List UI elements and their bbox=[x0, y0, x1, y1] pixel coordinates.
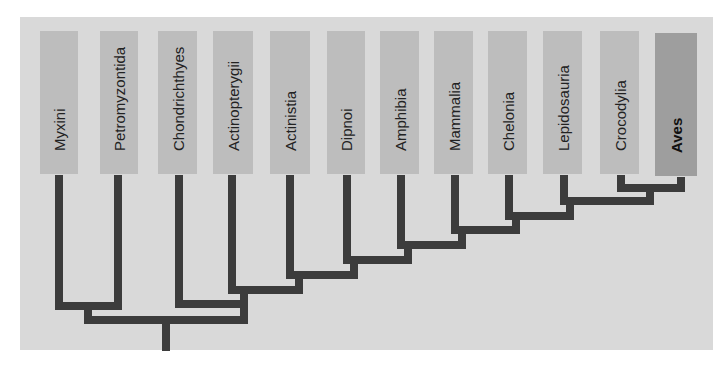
taxon-actinopterygii: Actinopterygii bbox=[213, 31, 253, 174]
node-gnathostomata bbox=[175, 300, 248, 308]
node-archosauria bbox=[617, 184, 685, 192]
taxon-chelonia: Chelonia bbox=[488, 31, 527, 174]
taxon-label: Crocodylia bbox=[611, 80, 628, 151]
node-osteichthyes bbox=[228, 286, 303, 294]
taxon-label: Amphibia bbox=[391, 88, 408, 151]
branch-tetrapoda-stem bbox=[458, 234, 466, 249]
node-sarcopterygii bbox=[286, 271, 358, 279]
branch-amniota-stem bbox=[512, 220, 520, 234]
branch-root-stem bbox=[162, 316, 170, 351]
branch-reptilia-stem bbox=[566, 205, 574, 220]
branch-chondrichthyes bbox=[175, 175, 183, 308]
branch-dipnoi bbox=[343, 175, 351, 264]
taxon-lepidosauria: Lepidosauria bbox=[543, 31, 582, 174]
branch-amphibia bbox=[397, 175, 405, 249]
branch-myxini bbox=[55, 175, 63, 310]
node-rhipidistia bbox=[343, 256, 412, 264]
branch-actinopterygii bbox=[228, 175, 236, 294]
taxon-label: Chelonia bbox=[499, 92, 516, 151]
taxon-label: Actinopterygii bbox=[225, 61, 242, 151]
taxon-chondrichthyes: Chondrichthyes bbox=[158, 31, 197, 174]
taxon-label: Dipnoi bbox=[338, 108, 355, 151]
branch-rhipidistia-stem bbox=[404, 249, 412, 264]
taxon-label: Myxini bbox=[51, 108, 68, 151]
taxon-label: Aves bbox=[668, 118, 685, 153]
branch-osteichthyes-stem bbox=[295, 279, 303, 294]
taxon-petromyzontida: Petromyzontida bbox=[100, 31, 138, 174]
taxon-label: Mammalia bbox=[445, 82, 462, 151]
branch-petromyzontida bbox=[114, 175, 122, 310]
taxon-aves: Aves bbox=[655, 33, 697, 176]
node-diapsida bbox=[560, 197, 654, 205]
taxon-label: Chondrichthyes bbox=[169, 47, 186, 151]
node-tetrapoda bbox=[397, 241, 466, 249]
node-reptilia bbox=[505, 212, 574, 220]
taxon-label: Actinistia bbox=[282, 91, 299, 151]
taxon-actinistia: Actinistia bbox=[270, 31, 310, 174]
taxon-label: Lepidosauria bbox=[554, 65, 571, 151]
node-amniota bbox=[451, 226, 520, 234]
taxon-crocodylia: Crocodylia bbox=[600, 31, 639, 174]
branch-actinistia bbox=[286, 175, 294, 279]
taxon-amphibia: Amphibia bbox=[380, 31, 419, 174]
taxon-myxini: Myxini bbox=[40, 31, 78, 174]
taxon-dipnoi: Dipnoi bbox=[327, 31, 365, 174]
branch-archosauria-stem bbox=[646, 190, 654, 205]
taxon-mammalia: Mammalia bbox=[434, 31, 473, 174]
branch-sarcopterygii-stem bbox=[350, 264, 358, 279]
taxon-label: Petromyzontida bbox=[111, 47, 128, 151]
